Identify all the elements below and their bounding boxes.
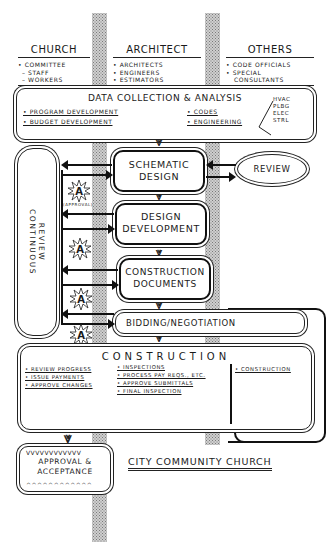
continuous-review-label: REVIEW CONTINUOUS <box>28 209 46 275</box>
column-list: • ARCHITECTS • ENGINEERS • ESTIMATORS <box>113 58 201 84</box>
list-item: ELEC <box>273 110 290 117</box>
column-architect: ARCHITECT • ARCHITECTS • ENGINEERS • EST… <box>113 44 201 84</box>
approval-burst-icon: A <box>70 288 92 310</box>
list-item: • CODES <box>187 108 218 115</box>
list-item: • INSPECTIONS <box>117 364 165 370</box>
arrow-spine-to-cd <box>61 284 117 286</box>
label-line: DOCUMENTS <box>121 278 209 290</box>
arrow-schematic-to-review <box>206 176 234 178</box>
box-title: BIDDING/NEGOTIATION <box>116 317 304 329</box>
label-line: DEVELOPMENT <box>117 223 205 235</box>
list-item: • SPECIAL <box>226 69 314 77</box>
box-title: SCHEMATIC DESIGN <box>115 159 203 183</box>
header-underline <box>18 85 314 86</box>
approval-marker: A <box>76 244 84 255</box>
list-item: • ISSUE PAYMENTS <box>25 374 84 380</box>
box-title: APPROVAL & ACCEPTANCE <box>20 457 110 477</box>
list-item: PLBG <box>273 103 290 110</box>
approval-burst-icon: A <box>68 180 90 202</box>
approval-caption: (APPROVAL) <box>63 202 93 207</box>
construction-church-items: • REVIEW PROGRESS • ISSUE PAYMENTS • APP… <box>25 365 93 389</box>
construction-divider <box>230 364 232 424</box>
arrow-schematic-to-review-spine <box>63 164 112 166</box>
label-line: REVIEW <box>37 209 46 275</box>
list-item: • PROCESS PAY REQS., ETC. <box>117 372 206 378</box>
column-title: OTHERS <box>226 44 314 58</box>
column-title: CHURCH <box>18 44 90 58</box>
list-item: • APPROVE CHANGES <box>25 382 93 388</box>
list-item: • PROGRAM DEVELOPMENT <box>23 108 118 115</box>
construction-documents-box: CONSTRUCTION DOCUMENTS <box>119 258 211 300</box>
zigzag-bottom: ^^^^^^^^^^^^ <box>26 481 92 488</box>
list-item: • COMMITTEE <box>18 61 90 69</box>
construction-contractor-items: • CONSTRUCTION <box>235 365 291 373</box>
label-line: CONSTRUCTION <box>121 266 209 278</box>
approval-marker: A <box>77 294 85 305</box>
list-item: • ESTIMATORS <box>113 76 201 84</box>
data-collection-right: • CODES • ENGINEERING <box>187 107 242 127</box>
arrow-spine-to-dd <box>61 228 113 230</box>
approval-marker: A <box>75 186 83 197</box>
flow-chevron-icon: ⩔ <box>156 138 162 148</box>
schematic-design-box: SCHEMATIC DESIGN <box>113 150 205 192</box>
label-line: DESIGN <box>117 211 205 223</box>
arrow-bidding-to-spine <box>63 313 114 315</box>
flow-chevron-icon: ⩔ <box>156 192 162 202</box>
list-item: • ENGINEERING <box>187 118 242 125</box>
construction-architect-items: • INSPECTIONS • PROCESS PAY REQS., ETC. … <box>117 363 206 395</box>
continuous-review-box: REVIEW CONTINUOUS <box>17 148 57 336</box>
data-collection-box: DATA COLLECTION & ANALYSIS • PROGRAM DEV… <box>16 88 314 140</box>
construction-box: CONSTRUCTION • REVIEW PROGRESS • ISSUE P… <box>20 346 312 430</box>
list-item: • CONSTRUCTION <box>235 366 291 372</box>
flow-chevron-icon: ⩔ <box>156 248 162 258</box>
list-item: CONSULTANTS <box>226 76 314 84</box>
label-line: APPROVAL & <box>20 457 110 467</box>
review-spine <box>61 170 63 325</box>
data-collection-left: • PROGRAM DEVELOPMENT • BUDGET DEVELOPME… <box>23 107 118 127</box>
box-title: CONSTRUCTION DOCUMENTS <box>121 266 209 290</box>
label-line: ACCEPTANCE <box>20 467 110 477</box>
list-item: • ARCHITECTS <box>113 61 201 69</box>
arrow-cd-to-spine <box>63 269 118 271</box>
label-line: SCHEMATIC <box>115 159 203 171</box>
branch-bracket-icon <box>255 99 275 139</box>
list-item: • FINAL INSPECTION <box>117 388 182 394</box>
column-others: OTHERS • CODE OFFICIALS • SPECIAL CONSUL… <box>226 44 314 84</box>
review-oval: REVIEW <box>237 154 307 184</box>
arrow-spine-to-schematic <box>61 174 111 176</box>
engineering-branches: HVAC PLBG ELEC STRL <box>273 96 290 124</box>
list-item: • APPROVE SUBMITTALS <box>117 380 193 386</box>
bidding-negotiation-box: BIDDING/NEGOTIATION <box>115 312 305 334</box>
flow-chevron-icon: ⩔ <box>156 334 162 344</box>
list-item: – WORKERS <box>18 76 90 84</box>
label-line: CONTINUOUS <box>28 209 37 275</box>
label-line: DESIGN <box>115 171 203 183</box>
arrow-review-to-schematic <box>208 164 236 166</box>
list-item: • ENGINEERS <box>113 69 201 77</box>
column-church: CHURCH • COMMITTEE – STAFF – WORKERS <box>18 44 90 84</box>
review-label: REVIEW <box>238 163 306 175</box>
column-list: • CODE OFFICIALS • SPECIAL CONSULTANTS <box>226 58 314 84</box>
approval-burst-icon: A <box>69 238 91 260</box>
flow-chevron-icon: ⩔ <box>64 432 72 442</box>
design-development-box: DESIGN DEVELOPMENT <box>115 203 207 245</box>
column-list: • COMMITTEE – STAFF – WORKERS <box>18 58 90 84</box>
list-item: STRL <box>273 117 290 124</box>
zigzag-top: vvvvvvvvvvvv <box>26 449 81 456</box>
construction-title: CONSTRUCTION <box>21 351 311 363</box>
approval-marker: A <box>77 330 85 341</box>
arrow-dd-to-spine <box>63 213 114 215</box>
column-title: ARCHITECT <box>113 44 201 58</box>
flow-chevron-icon: ⩔ <box>156 301 162 311</box>
approval-burst-icon: A <box>70 324 92 346</box>
approval-acceptance-box: vvvvvvvvvvvv APPROVAL & ACCEPTANCE ^^^^^… <box>19 446 111 492</box>
list-item: – STAFF <box>18 69 90 77</box>
box-title: DESIGN DEVELOPMENT <box>117 211 205 235</box>
list-item: HVAC <box>273 96 290 103</box>
list-item: • CODE OFFICIALS <box>226 61 314 69</box>
list-item: • BUDGET DEVELOPMENT <box>23 118 112 125</box>
list-item: • REVIEW PROGRESS <box>25 366 91 372</box>
project-name: CITY COMMUNITY CHURCH <box>128 456 272 471</box>
